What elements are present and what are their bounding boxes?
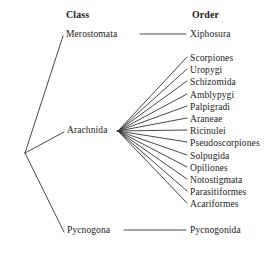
order-label: Palpigradi [190, 103, 230, 113]
branch-arachnida-to-order [118, 131, 187, 155]
phylogenetic-tree-figure: Class Order Merostomata Arachnida Pycnog… [0, 0, 280, 255]
order-label: Acariformes [190, 200, 239, 210]
branch-arachnida-to-order [118, 131, 187, 179]
branch-root-to-pycnogona [25, 153, 64, 232]
order-label: Opiliones [190, 164, 228, 174]
branch-arachnida-to-order [118, 81, 187, 131]
order-label: Xiphosura [190, 30, 230, 40]
branch-arachnida-to-order [118, 131, 187, 203]
order-label: Pycnogonida [190, 226, 241, 236]
order-label: Solpugida [190, 152, 229, 162]
order-label: Uropygi [190, 66, 222, 76]
order-label: Ricinulei [190, 127, 226, 137]
order-label: Parasitiformes [190, 188, 246, 198]
class-label-arachnida: Arachnida [67, 126, 107, 136]
order-label: Schizomida [190, 78, 236, 88]
class-label-merostomata: Merostomata [66, 30, 117, 40]
class-label-pycnogona: Pycnogona [67, 226, 110, 236]
order-label: Amblypygi [190, 91, 234, 101]
order-label: Notostigmata [190, 176, 242, 186]
order-label: Pseudoscorpiones [190, 139, 260, 149]
branch-arachnida-to-order [118, 106, 187, 131]
branch-arachnida-to-order [118, 130, 187, 131]
order-label: Araneae [190, 115, 222, 125]
column-header-order: Order [192, 10, 219, 20]
order-label: Scorpiones [190, 54, 233, 64]
tree-branches [0, 0, 280, 255]
column-header-class: Class [66, 10, 89, 20]
